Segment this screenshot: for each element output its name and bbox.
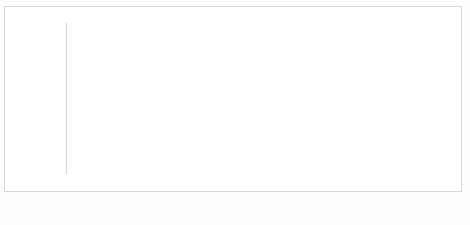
area-band-state-appropriations-tuition [67, 23, 452, 173]
figure-caption [4, 213, 334, 225]
chart-frame [4, 6, 462, 192]
chart-page [0, 0, 470, 225]
y-axis-tick-labels [5, 23, 63, 173]
plot-area [67, 23, 452, 173]
chart-legend [4, 193, 462, 206]
x-axis-tick-labels [67, 177, 452, 189]
